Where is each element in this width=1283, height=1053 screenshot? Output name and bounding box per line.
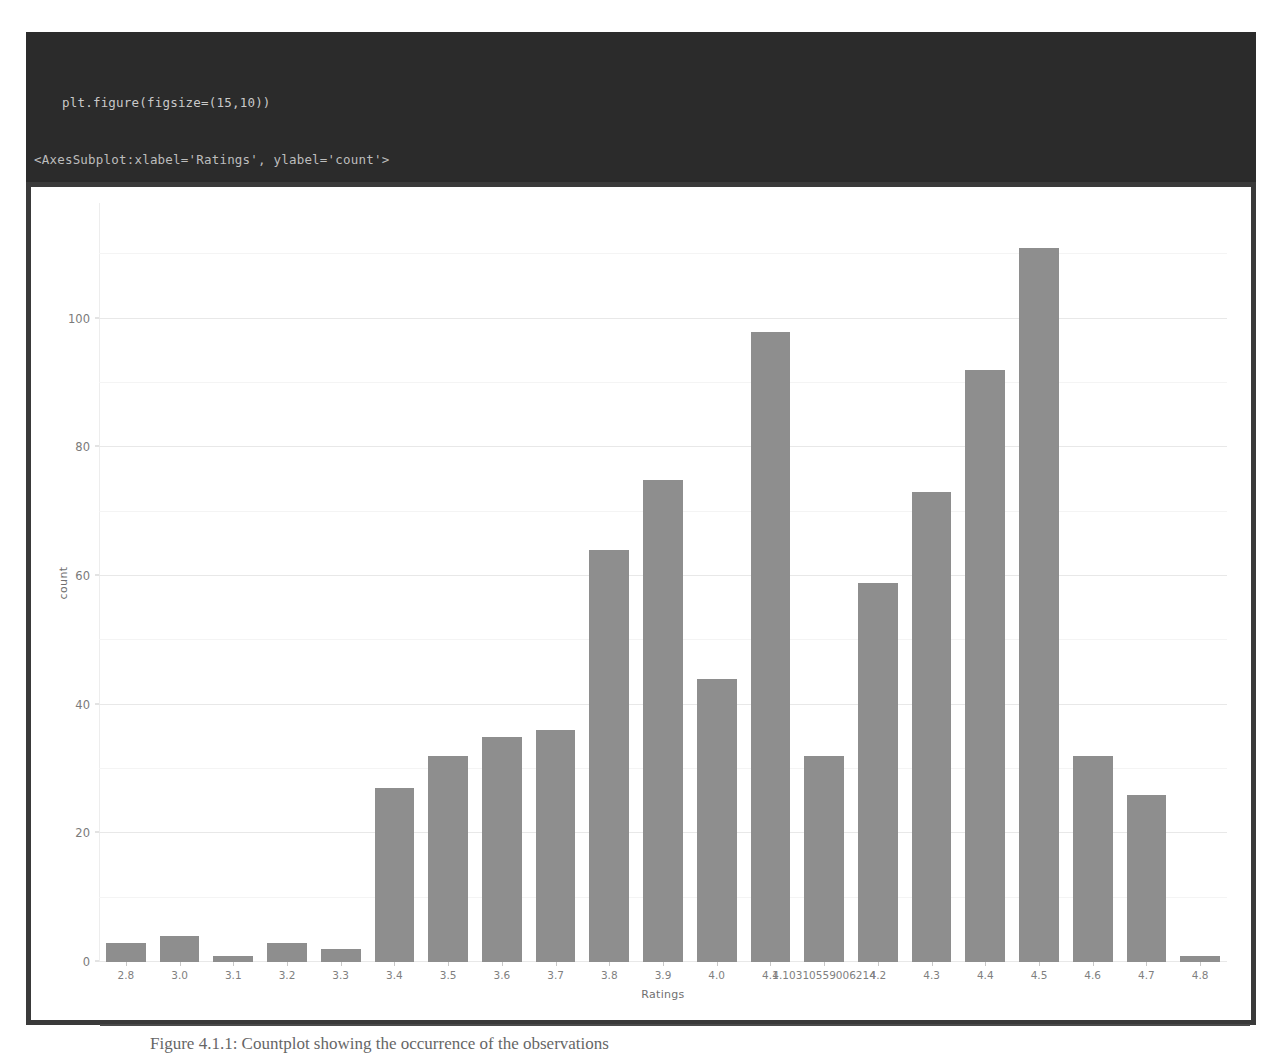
- bar[interactable]: [106, 943, 146, 962]
- bar-group: 4.4: [958, 203, 1012, 962]
- bar[interactable]: [267, 943, 307, 962]
- x-tick-label: 3.6: [493, 969, 510, 981]
- countplot-figure: 020406080100 2.83.03.13.23.33.43.53.63.7…: [31, 187, 1251, 1020]
- code-line-1: plt.figure(figsize=(15,10)): [62, 92, 325, 113]
- figure-frame: 020406080100 2.83.03.13.23.33.43.53.63.7…: [26, 182, 1256, 1025]
- x-tick-label: 4.8: [1192, 969, 1209, 981]
- bar-group: 3.7: [529, 203, 583, 962]
- x-tick-mark: [126, 962, 127, 966]
- x-tick-mark: [180, 962, 181, 966]
- x-tick-mark: [717, 962, 718, 966]
- axes-repr-text: <AxesSubplot:xlabel='Ratings', ylabel='c…: [34, 152, 389, 167]
- bar[interactable]: [321, 949, 361, 962]
- bar[interactable]: [1127, 795, 1167, 962]
- x-tick-label: 3.4: [386, 969, 403, 981]
- bar-group: 4.2: [851, 203, 905, 962]
- y-tick-label: 40: [75, 698, 90, 712]
- x-tick-mark: [663, 962, 664, 966]
- bar[interactable]: [536, 730, 576, 962]
- notebook-page: plt.figure(figsize=(15,10)) sns.set_styl…: [0, 0, 1283, 1053]
- x-tick-mark: [985, 962, 986, 966]
- bar-group: 2.8: [99, 203, 153, 962]
- x-tick-mark: [932, 962, 933, 966]
- x-tick-mark: [233, 962, 234, 966]
- x-tick-label: 2.8: [117, 969, 134, 981]
- bar[interactable]: [482, 737, 522, 962]
- x-tick-mark: [609, 962, 610, 966]
- x-tick-mark: [1039, 962, 1040, 966]
- bar[interactable]: [1019, 248, 1059, 962]
- x-tick-mark: [287, 962, 288, 966]
- y-tick-label: 0: [83, 955, 90, 969]
- bar[interactable]: [804, 756, 844, 962]
- x-tick-mark: [1093, 962, 1094, 966]
- bar-group: 3.9: [636, 203, 690, 962]
- x-tick-mark: [341, 962, 342, 966]
- x-tick-label: 3.0: [171, 969, 188, 981]
- x-tick-mark: [502, 962, 503, 966]
- bar-series: 2.83.03.13.23.33.43.53.63.73.83.94.04.14…: [99, 203, 1227, 962]
- x-tick-label: 3.2: [279, 969, 296, 981]
- y-tick-label: 20: [75, 826, 90, 840]
- bar-group: 3.5: [421, 203, 475, 962]
- x-tick-label: 4.7: [1138, 969, 1155, 981]
- x-tick-label: 4.5: [1031, 969, 1048, 981]
- bar[interactable]: [697, 679, 737, 962]
- bar-group: 4.0: [690, 203, 744, 962]
- x-tick-mark: [770, 962, 771, 966]
- x-tick-mark: [556, 962, 557, 966]
- x-tick-mark: [1146, 962, 1147, 966]
- bar[interactable]: [858, 583, 898, 963]
- bar-group: 3.8: [582, 203, 636, 962]
- y-axis-label: count: [57, 566, 70, 599]
- bar-group: 4.5: [1012, 203, 1066, 962]
- bar-group: 4.6: [1066, 203, 1120, 962]
- x-tick-label: 3.5: [440, 969, 457, 981]
- x-tick-label: 4.0: [708, 969, 725, 981]
- bar-group: 3.0: [153, 203, 207, 962]
- bar-group: 3.6: [475, 203, 529, 962]
- bar-group: 4.1: [744, 203, 798, 962]
- x-tick-mark: [824, 962, 825, 966]
- bar[interactable]: [375, 788, 415, 962]
- bar-group: 4.10310559006214: [797, 203, 851, 962]
- x-tick-mark: [878, 962, 879, 966]
- y-tick-label: 60: [75, 569, 90, 583]
- y-tick-label: 80: [75, 440, 90, 454]
- figure-caption: Figure 4.1.1: Countplot showing the occu…: [150, 1034, 1150, 1053]
- x-tick-label: 3.8: [601, 969, 618, 981]
- x-tick-label: 3.1: [225, 969, 242, 981]
- bar-group: 3.1: [206, 203, 260, 962]
- page-rule: [100, 1024, 1250, 1026]
- bar[interactable]: [751, 332, 791, 962]
- x-tick-label: 3.9: [655, 969, 672, 981]
- bar[interactable]: [965, 370, 1005, 962]
- x-tick-label: 3.3: [332, 969, 349, 981]
- x-tick-mark: [448, 962, 449, 966]
- bar[interactable]: [160, 936, 200, 962]
- x-tick-label: 3.7: [547, 969, 564, 981]
- bar-group: 4.7: [1120, 203, 1174, 962]
- x-tick-mark: [1200, 962, 1201, 966]
- bar-group: 3.4: [368, 203, 422, 962]
- y-tick-label: 100: [68, 312, 90, 326]
- bar[interactable]: [643, 480, 683, 962]
- x-tick-label: 4.3: [923, 969, 940, 981]
- bar[interactable]: [1073, 756, 1113, 962]
- bar-group: 4.8: [1173, 203, 1227, 962]
- bar-group: 4.3: [905, 203, 959, 962]
- x-tick-label: 4.2: [869, 969, 886, 981]
- bar[interactable]: [912, 492, 952, 962]
- bar[interactable]: [428, 756, 468, 962]
- x-tick-label: 4.10310559006214: [772, 969, 876, 981]
- x-tick-mark: [394, 962, 395, 966]
- bar[interactable]: [589, 550, 629, 962]
- x-tick-label: 4.4: [977, 969, 994, 981]
- code-output-cell: <AxesSubplot:xlabel='Ratings', ylabel='c…: [26, 140, 1256, 182]
- x-tick-label: 4.6: [1084, 969, 1101, 981]
- bar-group: 3.2: [260, 203, 314, 962]
- bar-group: 3.3: [314, 203, 368, 962]
- chart-axes: 020406080100 2.83.03.13.23.33.43.53.63.7…: [99, 203, 1227, 962]
- x-axis-label: Ratings: [99, 988, 1227, 1001]
